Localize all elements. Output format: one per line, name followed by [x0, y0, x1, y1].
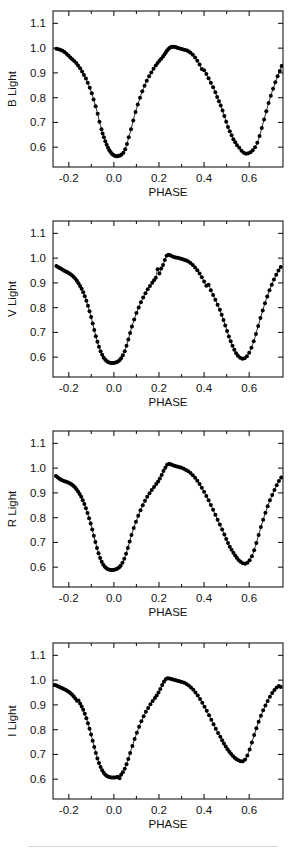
data-point	[94, 334, 98, 338]
data-point	[86, 511, 90, 515]
figure-bottom-rule	[28, 846, 278, 847]
data-point	[146, 287, 150, 291]
x-tick-label: 0.6	[241, 382, 257, 394]
data-point	[128, 751, 132, 755]
data-point	[95, 756, 99, 760]
fit-curve	[56, 255, 280, 363]
data-point	[211, 293, 215, 297]
data-point	[152, 67, 156, 71]
data-point	[202, 490, 206, 494]
data-point	[129, 127, 133, 131]
x-tick-label: 0.4	[196, 382, 213, 394]
data-point	[200, 701, 204, 705]
data-point	[253, 145, 257, 149]
data-point	[124, 552, 128, 556]
data-point	[213, 90, 217, 94]
data-point	[217, 99, 221, 103]
data-point	[89, 315, 93, 319]
data-point	[203, 705, 207, 709]
data-point	[99, 127, 103, 131]
x-axis-title: PHASE	[149, 818, 188, 830]
data-point	[250, 554, 254, 558]
plot-frame	[53, 11, 283, 167]
data-point	[274, 273, 278, 277]
data-point	[83, 712, 87, 716]
data-point	[139, 719, 143, 723]
data-point	[218, 523, 222, 527]
data-point	[93, 540, 97, 544]
data-point	[126, 338, 130, 342]
x-tick-label: 0.0	[106, 804, 122, 816]
data-point	[272, 277, 276, 281]
data-point	[263, 703, 267, 707]
data-point	[99, 349, 103, 353]
data-point	[86, 81, 90, 85]
y-tick-label: 0.7	[30, 326, 46, 338]
data-point	[263, 511, 267, 515]
data-point	[97, 761, 101, 765]
data-point	[218, 308, 222, 312]
data-point	[207, 283, 211, 287]
data-point	[277, 479, 281, 483]
data-point	[145, 495, 149, 499]
data-point	[254, 541, 258, 545]
data-point	[121, 353, 125, 357]
panel-b-light: -0.20.00.20.40.60.60.70.80.91.01.1PHASEB…	[0, 0, 296, 213]
data-point	[138, 96, 142, 100]
data-point	[134, 520, 138, 524]
x-tick-label: 0.6	[241, 172, 257, 184]
x-tick-label: 0.2	[151, 382, 167, 394]
data-point	[139, 300, 143, 304]
x-tick-label: -0.2	[59, 172, 79, 184]
data-point	[222, 533, 226, 537]
data-point	[143, 499, 147, 503]
data-point	[226, 541, 230, 545]
data-point	[136, 514, 140, 518]
data-point	[200, 486, 204, 490]
data-point	[198, 482, 202, 486]
panel-i-light: -0.20.00.20.40.60.60.70.80.91.01.1PHASEI…	[0, 632, 296, 845]
data-point	[160, 473, 164, 477]
data-point	[220, 313, 224, 317]
data-point	[252, 733, 256, 737]
data-point	[94, 751, 98, 755]
data-point	[146, 706, 150, 710]
data-point	[148, 491, 152, 495]
data-point	[196, 694, 200, 698]
data-point	[132, 526, 136, 530]
data-point	[216, 303, 220, 307]
data-point	[276, 269, 280, 273]
data-point	[216, 731, 220, 735]
x-axis-title: PHASE	[149, 396, 188, 408]
data-point	[202, 279, 206, 283]
data-point	[81, 290, 85, 294]
data-point	[158, 477, 162, 481]
data-point	[204, 72, 208, 76]
data-point	[126, 546, 130, 550]
data-point	[209, 288, 213, 292]
data-point	[158, 687, 162, 691]
y-axis-title: R Light	[6, 490, 18, 527]
data-point	[264, 109, 268, 113]
data-point	[261, 308, 265, 312]
data-point	[121, 151, 125, 155]
data-point	[227, 334, 231, 338]
data-point	[91, 322, 95, 326]
data-point	[149, 70, 153, 74]
data-point	[144, 710, 148, 714]
data-point	[137, 725, 141, 729]
data-point	[156, 267, 160, 271]
data-point	[225, 329, 229, 333]
data-point	[224, 120, 228, 124]
data-point	[266, 504, 270, 508]
data-point	[128, 331, 132, 335]
data-point	[270, 283, 274, 287]
data-point	[143, 291, 147, 295]
data-point	[125, 344, 129, 348]
data-point	[250, 741, 254, 745]
data-point	[130, 744, 134, 748]
data-point	[258, 316, 262, 320]
x-tick-label: -0.2	[59, 382, 79, 394]
x-tick-label: -0.2	[59, 592, 79, 604]
data-point	[261, 518, 265, 522]
